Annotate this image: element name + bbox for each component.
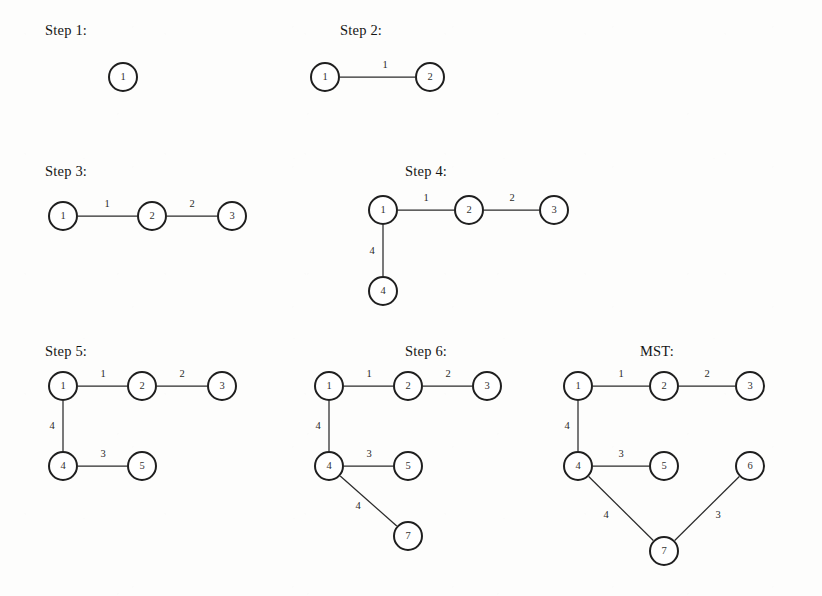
panel-title-step-1: Step 1: [45,22,87,39]
edge-weight-mst-6-7: 3 [715,510,720,521]
node-step-5-1: 1 [48,371,78,401]
node-mst-3: 3 [735,371,765,401]
node-step-4-3: 3 [539,195,569,225]
edge-weight-mst-4-7: 4 [603,510,608,521]
edge-weight-step-5-1-2: 1 [100,369,105,380]
edge-weight-step-2-1-2: 1 [382,60,387,71]
node-mst-2: 2 [649,371,679,401]
panel-title-step-6: Step 6: [405,343,447,360]
edge-mst-4-7 [589,477,654,541]
node-mst-6: 6 [735,451,765,481]
edge-weight-mst-1-2: 1 [618,369,623,380]
edge-weight-mst-2-3: 2 [704,369,709,380]
node-step-2-2: 2 [415,62,445,92]
node-mst-7: 7 [649,536,679,566]
edge-weight-step-4-1-2: 1 [423,193,428,204]
node-step-5-4: 4 [48,451,78,481]
node-step-4-1: 1 [368,195,398,225]
node-step-6-4: 4 [314,451,344,481]
edge-weight-step-5-4-5: 3 [100,449,105,460]
node-step-5-2: 2 [127,371,157,401]
edge-weight-step-6-1-2: 1 [366,369,371,380]
node-mst-4: 4 [563,451,593,481]
node-step-4-4: 4 [368,276,398,306]
node-mst-1: 1 [563,371,593,401]
node-step-4-2: 2 [454,195,484,225]
edge-weight-step-5-1-4: 4 [49,421,54,432]
panel-title-step-5: Step 5: [45,343,87,360]
node-step-6-7: 7 [393,521,423,551]
node-step-6-5: 5 [393,451,423,481]
edge-weight-step-6-4-5: 3 [366,449,371,460]
node-step-2-1: 1 [310,62,340,92]
node-mst-5: 5 [649,451,679,481]
edge-weight-step-6-2-3: 2 [445,369,450,380]
mst-construction-figure: Step 1:1Step 2:112Step 3:12123Step 4:124… [0,0,822,596]
node-step-3-2: 2 [137,201,167,231]
node-step-3-1: 1 [48,201,78,231]
node-step-6-1: 1 [314,371,344,401]
node-step-5-5: 5 [127,451,157,481]
edge-weight-step-3-1-2: 1 [104,199,109,210]
node-step-6-2: 2 [393,371,423,401]
node-step-3-3: 3 [217,201,247,231]
node-step-6-3: 3 [472,371,502,401]
panel-title-step-3: Step 3: [45,163,87,180]
edge-weight-step-6-4-7: 4 [355,501,360,512]
edge-weight-mst-1-4: 4 [564,421,569,432]
edge-weight-step-5-2-3: 2 [179,369,184,380]
edge-weight-step-3-2-3: 2 [189,199,194,210]
edge-step-6-4-7 [340,476,397,526]
panel-title-step-4: Step 4: [405,163,447,180]
edge-weight-mst-4-5: 3 [618,449,623,460]
node-step-1-1: 1 [108,62,138,92]
panel-title-mst: MST: [640,343,674,360]
edge-weight-step-4-1-4: 4 [369,246,374,257]
edge-weight-step-6-1-4: 4 [315,421,320,432]
edge-mst-6-7 [675,477,740,541]
edge-weight-step-4-2-3: 2 [509,193,514,204]
node-step-5-3: 3 [207,371,237,401]
panel-title-step-2: Step 2: [340,22,382,39]
